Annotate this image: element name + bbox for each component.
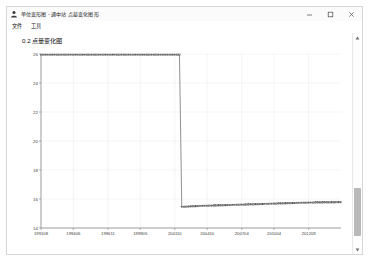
chevron-up-icon <box>355 36 360 40</box>
svg-text:26: 26 <box>33 52 38 57</box>
chart-title: 0.2 点量变化图 <box>22 38 62 44</box>
menu-item-tools[interactable]: 工具 <box>30 23 42 30</box>
svg-text:199406: 199406 <box>66 231 81 236</box>
application-window: 单位变形图 - 通中站 点墓变化图形 文件 工具 <box>0 0 369 261</box>
chart-xtick-labels: 1991081994061996111999052001102004102007… <box>34 231 316 236</box>
line-chart: 14161820222426 1991081994061996111999052… <box>19 48 347 246</box>
chart-plot-container: 14161820222426 1991081994061996111999052… <box>19 48 347 246</box>
maximize-button[interactable] <box>320 7 341 21</box>
chart-series-markers <box>40 54 342 208</box>
svg-text:16: 16 <box>33 197 38 202</box>
chart-ytick-labels: 14161820222426 <box>33 52 38 231</box>
svg-text:199611: 199611 <box>101 231 115 236</box>
vertical-scrollbar[interactable] <box>352 33 361 254</box>
chart-pane: 0.2 点量变化图 14161820222426 199108199406199… <box>11 34 351 251</box>
person-icon <box>10 10 18 18</box>
svg-text:200410: 200410 <box>200 231 215 236</box>
title-bar-left: 单位变形图 - 通中站 点墓变化图形 <box>7 10 299 18</box>
window-controls <box>299 7 362 21</box>
chevron-down-icon <box>355 248 360 252</box>
svg-text:14: 14 <box>33 226 38 231</box>
chart-gridlines <box>41 54 341 228</box>
scrollbar-thumb[interactable] <box>354 188 361 236</box>
close-button[interactable] <box>341 7 362 21</box>
scroll-up-button[interactable] <box>353 33 362 42</box>
minimize-button[interactable] <box>299 7 320 21</box>
menu-item-file[interactable]: 文件 <box>11 23 23 30</box>
svg-text:199108: 199108 <box>34 231 49 236</box>
svg-text:24: 24 <box>33 81 38 86</box>
scrollbar-track[interactable] <box>353 42 361 245</box>
svg-text:201209: 201209 <box>302 231 317 236</box>
svg-text:200110: 200110 <box>168 231 182 236</box>
window-title: 单位变形图 - 通中站 点墓变化图形 <box>21 12 99 17</box>
chart-series-line <box>41 55 341 207</box>
svg-text:200704: 200704 <box>235 231 250 236</box>
menu-bar: 文件 工具 <box>6 21 363 32</box>
svg-text:20: 20 <box>33 139 38 144</box>
svg-text:18: 18 <box>33 168 38 173</box>
close-icon <box>348 11 355 18</box>
client-area: 0.2 点量变化图 14161820222426 199108199406199… <box>6 32 363 255</box>
maximize-icon <box>327 11 334 18</box>
scroll-down-button[interactable] <box>353 245 362 254</box>
svg-text:22: 22 <box>33 110 38 115</box>
svg-text:201004: 201004 <box>267 231 282 236</box>
minimize-icon <box>306 11 313 18</box>
title-bar: 单位变形图 - 通中站 点墓变化图形 <box>6 6 363 21</box>
svg-text:199905: 199905 <box>133 231 148 236</box>
